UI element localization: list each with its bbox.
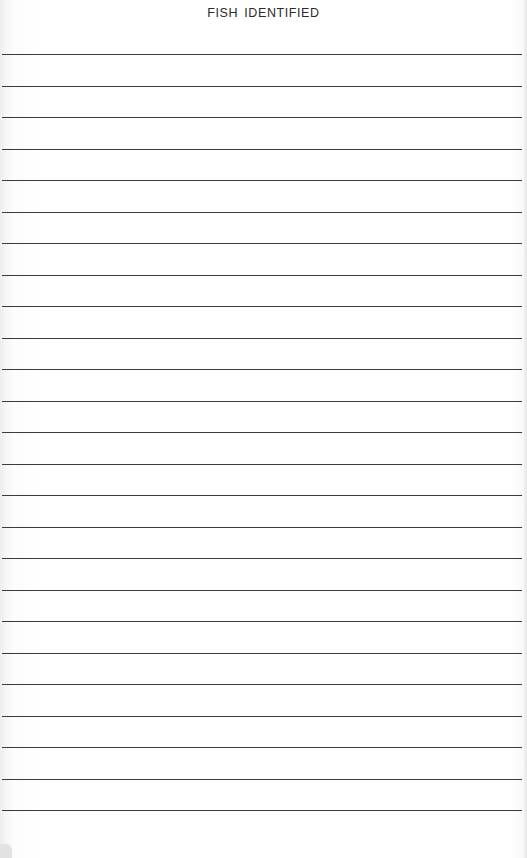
ruled-line — [2, 464, 522, 465]
ruled-line — [2, 401, 522, 402]
ruled-line — [2, 684, 522, 685]
ruled-line — [2, 558, 522, 559]
ruled-line — [2, 527, 522, 528]
ruled-line — [2, 180, 522, 181]
ruled-line — [2, 653, 522, 654]
ruled-line — [2, 810, 522, 811]
ruled-line — [2, 275, 522, 276]
ruled-line — [2, 54, 522, 55]
ruled-line — [2, 86, 522, 87]
ruled-line — [2, 495, 522, 496]
ruled-line — [2, 149, 522, 150]
ruled-line — [2, 716, 522, 717]
page-corner — [0, 844, 12, 858]
ruled-line — [2, 747, 522, 748]
ruled-line — [2, 117, 522, 118]
page-edge-shadow — [523, 0, 527, 858]
ruled-line — [2, 369, 522, 370]
page-title: FISH IDENTIFIED — [0, 6, 527, 20]
ruled-line — [2, 432, 522, 433]
ruled-page: FISH IDENTIFIED — [0, 0, 527, 858]
ruled-line — [2, 306, 522, 307]
ruled-line — [2, 243, 522, 244]
ruled-line — [2, 779, 522, 780]
ruled-line — [2, 590, 522, 591]
ruled-line — [2, 212, 522, 213]
ruled-line — [2, 621, 522, 622]
ruled-line — [2, 338, 522, 339]
